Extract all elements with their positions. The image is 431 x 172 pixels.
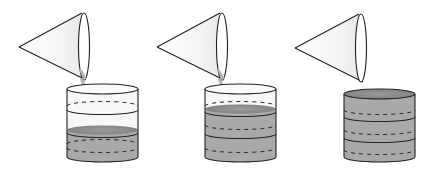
cone-cup-diagram <box>0 0 431 172</box>
stage-1 <box>19 13 138 162</box>
stage-3 <box>295 14 415 162</box>
diagram-stage <box>0 0 431 172</box>
cone-icon <box>157 13 228 80</box>
cone-icon <box>295 14 367 82</box>
cup-icon <box>205 84 276 162</box>
stage-2 <box>157 13 276 162</box>
cup-icon <box>67 84 138 162</box>
cup-icon <box>344 89 415 162</box>
cone-icon <box>19 13 90 80</box>
